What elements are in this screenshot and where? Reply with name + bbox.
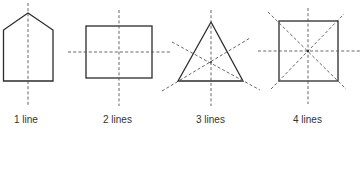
- figure-pentagon: [4, 3, 54, 106]
- label-figure-1: 1 line: [14, 114, 38, 125]
- figure-square: [258, 8, 360, 104]
- symmetry-line-diagonal-1: [172, 42, 260, 90]
- label-figure-2: 2 lines: [103, 114, 132, 125]
- centroid-dot: [210, 61, 212, 63]
- figure-rectangle: [68, 10, 170, 106]
- label-figure-4: 4 lines: [293, 114, 322, 125]
- symmetry-line-diagonal-2: [162, 38, 250, 91]
- label-figure-3: 3 lines: [196, 114, 225, 125]
- center-dot: [307, 50, 309, 52]
- symmetry-diagram: [0, 0, 360, 169]
- figure-triangle: [162, 10, 260, 106]
- triangle-shape: [178, 22, 243, 81]
